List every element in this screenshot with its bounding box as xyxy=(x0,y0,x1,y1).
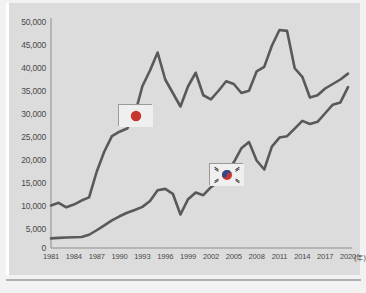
y-tick-label: 35,000 xyxy=(0,87,46,96)
line-series-south-korea xyxy=(51,87,348,238)
y-tick-label: 5,000 xyxy=(0,225,46,234)
line-series-japan xyxy=(51,30,348,207)
japan-flag-icon xyxy=(119,105,153,127)
y-tick-label: 40,000 xyxy=(0,64,46,73)
y-tick-label: 25,000 xyxy=(0,133,46,142)
japan-flag-marker xyxy=(118,104,152,126)
y-tick-label: 15,000 xyxy=(0,179,46,188)
y-tick-label: 45,000 xyxy=(0,41,46,50)
y-tick-label: 20,000 xyxy=(0,156,46,165)
south-korea-flag-icon xyxy=(210,164,244,186)
y-tick-label: 30,000 xyxy=(0,110,46,119)
y-tick-label: 10,000 xyxy=(0,202,46,211)
south-korea-flag-marker xyxy=(209,163,243,185)
y-tick-label: 50,000 xyxy=(0,18,46,27)
x-axis-unit-label: (年) xyxy=(354,253,366,262)
